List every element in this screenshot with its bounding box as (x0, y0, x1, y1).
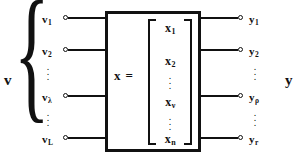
output-port-sub-3: ρ (255, 96, 259, 105)
state-element-sub-4: n (171, 138, 175, 147)
dot: . (156, 124, 184, 129)
output-lead-4 (199, 137, 238, 139)
output-lead-2 (199, 49, 238, 51)
state-vector-equation: x= (114, 68, 134, 84)
input-port-label-2: v2 (42, 46, 51, 57)
output-terminal-1[interactable] (238, 15, 243, 20)
state-element-1: x1 (156, 22, 184, 34)
dot: . (42, 120, 54, 125)
state-element-sub-3: ν (172, 101, 176, 110)
input-lead-1 (68, 17, 107, 19)
output-port-name-1: y (249, 13, 255, 25)
dot: . (249, 74, 261, 79)
state-ellipsis-upper: . . . (156, 73, 184, 88)
state-element-3: xν (156, 96, 184, 108)
input-vector-label: v (4, 73, 12, 88)
state-element-2: x2 (156, 55, 184, 67)
output-port-name-4: y (249, 133, 255, 145)
input-lead-2 (68, 49, 107, 51)
state-element-sub-1: 1 (172, 27, 176, 36)
state-vector-matrix: x1 x2 . . . xν . . . xn (148, 19, 192, 145)
input-port-sub-3: λ (48, 96, 52, 105)
output-vector-label: y (285, 73, 293, 88)
output-port-sub-4: r (255, 138, 258, 147)
dot: . (249, 120, 261, 125)
output-port-label-4: yr (249, 134, 258, 145)
input-port-sub-1: 1 (48, 18, 52, 27)
input-lead-4 (68, 137, 107, 139)
state-element-4: xn (156, 133, 184, 145)
dot: . (156, 83, 184, 88)
input-port-name-2: v (42, 45, 48, 57)
output-terminal-4[interactable] (238, 135, 243, 140)
input-port-sub-4: L (48, 138, 53, 147)
input-port-label-3: vλ (42, 92, 51, 103)
output-port-sub-2: 2 (255, 50, 259, 59)
bracket-left-icon (148, 19, 156, 145)
output-lead-3 (199, 95, 238, 97)
state-element-name-2: x (165, 54, 171, 68)
output-port-label-2: y2 (249, 46, 258, 57)
state-element-name-1: x (165, 21, 171, 35)
state-vector-symbol: x (114, 68, 122, 83)
output-terminal-3[interactable] (238, 93, 243, 98)
input-port-sub-2: 2 (48, 50, 52, 59)
output-port-label-1: y1 (249, 14, 258, 25)
input-ellipsis-upper: . . . (42, 64, 54, 79)
output-terminal-2[interactable] (238, 47, 243, 52)
bracket-right-icon (184, 19, 192, 145)
output-ellipsis-upper: . . . (249, 64, 261, 79)
state-ellipsis-lower: . . . (156, 114, 184, 129)
dot: . (42, 74, 54, 79)
output-lead-1 (199, 17, 238, 19)
block-diagram-figure: { v v1 v2 vλ vL . . . . . . x= (0, 0, 302, 163)
equals-sign: = (126, 68, 134, 83)
state-element-name-3: x (165, 95, 171, 109)
output-ellipsis-lower: . . . (249, 110, 261, 125)
state-element-name-4: x (165, 132, 171, 146)
input-port-name-3: v (42, 91, 48, 103)
state-element-sub-2: 2 (172, 60, 176, 69)
input-lead-3 (68, 95, 107, 97)
output-port-label-3: yρ (249, 92, 259, 103)
input-port-name-1: v (42, 13, 48, 25)
input-port-name-4: v (42, 133, 48, 145)
input-ellipsis-lower: . . . (42, 110, 54, 125)
input-port-label-4: vL (42, 134, 53, 145)
output-port-name-2: y (249, 45, 255, 57)
output-port-sub-1: 1 (255, 18, 259, 27)
input-port-label-1: v1 (42, 14, 51, 25)
output-port-name-3: y (249, 91, 255, 103)
